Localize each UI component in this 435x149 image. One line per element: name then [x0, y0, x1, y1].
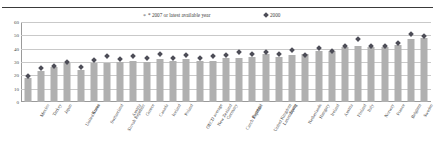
bar[interactable]	[143, 62, 150, 102]
bar-slot[interactable]	[140, 22, 153, 102]
bar[interactable]	[408, 39, 415, 102]
bar[interactable]	[64, 63, 71, 102]
bar-slot[interactable]	[87, 22, 100, 102]
x-axis-tick-label: Japan	[64, 103, 74, 115]
x-axis-label: Poland	[184, 103, 195, 117]
x-axis-label: Iceland	[171, 103, 182, 117]
bar[interactable]	[117, 62, 124, 102]
marker-diamond[interactable]	[236, 50, 242, 56]
x-axis-label: Sweden	[423, 103, 435, 118]
bar[interactable]	[236, 58, 243, 102]
bar-slot[interactable]	[47, 22, 60, 102]
marker-diamond[interactable]	[157, 51, 163, 57]
y-axis-tick-label: 30	[14, 60, 19, 65]
x-axis-label: Portugal	[251, 103, 263, 119]
bar-slot[interactable]	[61, 22, 74, 102]
y-axis-tick-label: 40	[14, 46, 19, 51]
top-divider-rule	[2, 7, 433, 8]
marker-diamond[interactable]	[210, 54, 216, 60]
bar-slot[interactable]	[405, 22, 418, 102]
bar-slot[interactable]	[100, 22, 113, 102]
bar[interactable]	[262, 54, 269, 102]
x-axis-tick-label: Ireland	[329, 103, 340, 117]
bar[interactable]	[249, 57, 256, 102]
bar-slot[interactable]	[114, 22, 127, 102]
bar[interactable]	[381, 47, 388, 102]
bar-slot[interactable]	[391, 22, 404, 102]
bar-slot[interactable]	[378, 22, 391, 102]
x-axis-tick-label: Mexico	[39, 103, 50, 118]
x-axis-tick-label: Sweden	[423, 103, 435, 118]
y-axis-tick-label: 60	[14, 20, 19, 25]
bar[interactable]	[328, 51, 335, 102]
bar[interactable]	[24, 78, 31, 102]
marker-diamond[interactable]	[183, 52, 189, 58]
bar[interactable]	[196, 61, 203, 102]
bar[interactable]	[183, 59, 190, 102]
diamond-marker-icon	[263, 12, 269, 18]
x-axis-tick-label: Turkey	[52, 103, 63, 117]
bar-slot[interactable]	[127, 22, 140, 102]
bar-slot[interactable]	[418, 22, 431, 102]
bar-slot[interactable]	[34, 22, 47, 102]
bar[interactable]	[222, 58, 229, 102]
bar[interactable]	[90, 63, 97, 102]
bar-slot[interactable]	[325, 22, 338, 102]
bar-slot[interactable]	[286, 22, 299, 102]
bar-slot[interactable]	[312, 22, 325, 102]
marker-diamond[interactable]	[130, 54, 136, 60]
x-axis-label: Austria	[343, 103, 354, 117]
bar-slot[interactable]	[74, 22, 87, 102]
x-axis-label: Switzerland	[109, 103, 124, 125]
x-axis-label: Turkey	[52, 103, 63, 117]
bar[interactable]	[368, 47, 375, 102]
bar-slot[interactable]	[299, 22, 312, 102]
bar[interactable]	[130, 61, 137, 102]
plot-area: 0102030405060	[21, 22, 431, 102]
bar[interactable]	[209, 61, 216, 102]
bar[interactable]	[275, 57, 282, 102]
bar-slot[interactable]	[219, 22, 232, 102]
marker-diamond[interactable]	[408, 31, 414, 37]
marker-diamond[interactable]	[104, 54, 110, 60]
bar[interactable]	[170, 61, 177, 102]
bar-slot[interactable]	[153, 22, 166, 102]
bar-slot[interactable]	[166, 22, 179, 102]
x-axis-tick-label: Iceland	[171, 103, 182, 117]
bar[interactable]	[103, 63, 110, 102]
legend-item-2000: 2000	[264, 12, 280, 18]
bar-slot[interactable]	[338, 22, 351, 102]
bar[interactable]	[37, 71, 44, 102]
x-axis-tick-label: Belgium	[410, 103, 422, 119]
bar-slot[interactable]	[352, 22, 365, 102]
bar[interactable]	[421, 38, 428, 102]
bar[interactable]	[77, 70, 84, 102]
bar-slot[interactable]	[206, 22, 219, 102]
bar-slot[interactable]	[272, 22, 285, 102]
bar-slot[interactable]	[246, 22, 259, 102]
bar-slot[interactable]	[233, 22, 246, 102]
asterisk-icon: *	[143, 13, 146, 19]
marker-diamond[interactable]	[355, 36, 361, 42]
bar[interactable]	[289, 55, 296, 102]
bar[interactable]	[302, 54, 309, 102]
bar-slot[interactable]	[259, 22, 272, 102]
x-axis-label: Japan	[64, 103, 74, 115]
bar-series	[21, 22, 431, 102]
x-axis-label: Belgium	[410, 103, 422, 119]
chart-figure: * * 2007 or latest available year 2000 0…	[0, 0, 435, 149]
bar-slot[interactable]	[365, 22, 378, 102]
bar-slot[interactable]	[180, 22, 193, 102]
bar-slot[interactable]	[21, 22, 34, 102]
legend-label-2007: * 2007 or latest available year	[148, 12, 210, 18]
bar[interactable]	[51, 67, 58, 102]
marker-diamond[interactable]	[289, 47, 295, 53]
bar[interactable]	[394, 45, 401, 102]
bar[interactable]	[156, 59, 163, 102]
marker-diamond[interactable]	[144, 55, 150, 61]
bar[interactable]	[315, 51, 322, 102]
bar[interactable]	[342, 47, 349, 102]
x-axis-labels: MexicoTurkeyJapanUnited StatesKoreaSwitz…	[21, 103, 431, 149]
bar-slot[interactable]	[193, 22, 206, 102]
bar[interactable]	[355, 46, 362, 102]
